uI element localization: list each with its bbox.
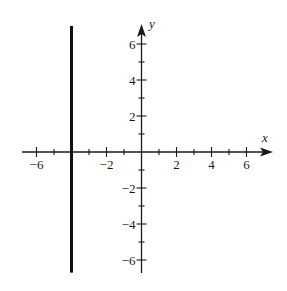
x-tick-label: 2 [173,157,180,172]
y-tick-label: 2 [129,109,136,124]
x-axis-label: x [261,130,268,145]
x-tick-label: −6 [30,157,44,172]
x-tick-label: 6 [243,157,250,172]
x-tick-label: 4 [208,157,215,172]
x-tick-label: −2 [100,157,114,172]
y-tick-label: −4 [122,217,136,232]
coordinate-plane: x y −6−2246642−2−4−6 [0,0,287,291]
y-tick-label: 6 [129,37,136,52]
y-tick-label: 4 [129,73,136,88]
y-tick-label: −2 [122,181,136,196]
y-axis-label: y [147,16,155,31]
y-tick-label: −6 [122,253,136,268]
